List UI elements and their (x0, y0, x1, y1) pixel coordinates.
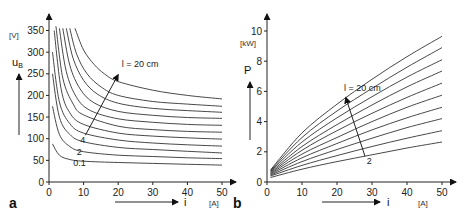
chart-a-curves (53, 26, 223, 165)
chart-a-y-label: uB (12, 56, 23, 69)
chart-b-panel-label: b (233, 195, 242, 211)
figure: 050100150200250300350 01020304050 [V] uB… (0, 0, 468, 217)
chart-a-annotation-0-1: 0.1 (73, 158, 86, 168)
chart-b-curves (271, 36, 443, 177)
y-tick-label: 100 (27, 133, 44, 144)
chart-a-x-label: i (184, 196, 186, 208)
chart-b-annotation-2: 2 (367, 156, 372, 166)
y-tick-label: 4 (256, 116, 262, 127)
chart-b-y-label: P (244, 64, 251, 76)
chart-a-x-unit: [A] (209, 199, 219, 208)
chart-b-annotation-20cm: l = 20 cm (344, 83, 381, 93)
chart-a-y-ticks: 050100150200250300350 (27, 25, 49, 188)
chart-a-annotation-20cm: l = 20 cm (122, 59, 159, 69)
series-curve (54, 31, 222, 140)
chart-a-y-unit: [V] (9, 31, 19, 40)
x-tick-label: 10 (78, 187, 90, 198)
chart-a-annotation-4: 4 (80, 135, 85, 145)
y-tick-label: 300 (27, 47, 44, 58)
chart-b-x-label: i (387, 196, 389, 208)
series-curve (271, 131, 443, 176)
chart-b-y-unit: [kW] (240, 39, 256, 48)
x-tick-label: 0 (264, 187, 270, 198)
x-tick-label: 10 (296, 187, 308, 198)
x-tick-label: 20 (331, 187, 343, 198)
y-tick-label: 6 (256, 86, 262, 97)
chart-a-panel-label: a (9, 195, 17, 211)
y-tick-label: 350 (27, 25, 44, 36)
series-curve (271, 36, 443, 170)
x-tick-label: 30 (147, 187, 159, 198)
chart-a: 050100150200250300350 01020304050 [V] uB… (9, 14, 236, 211)
y-tick-label: 200 (27, 90, 44, 101)
y-tick-label: 0 (256, 177, 262, 188)
y-tick-label: 250 (27, 68, 44, 79)
y-tick-label: 10 (251, 26, 263, 37)
chart-b: 0246810 01020304050 [kW] P b i [A] l = 2… (233, 14, 456, 211)
x-tick-label: 50 (216, 187, 228, 198)
series-curve (56, 26, 222, 132)
y-tick-label: 8 (256, 56, 262, 67)
chart-b-y-ticks: 0246810 (251, 26, 267, 188)
x-tick-label: 40 (401, 187, 413, 198)
x-tick-label: 50 (436, 187, 448, 198)
series-curve (271, 95, 443, 174)
x-tick-label: 0 (46, 187, 52, 198)
y-tick-label: 2 (256, 146, 262, 157)
y-tick-label: 150 (27, 112, 44, 123)
x-tick-label: 30 (366, 187, 378, 198)
chart-a-annotation-2: 2 (77, 147, 82, 157)
chart-a-x-ticks: 01020304050 (46, 182, 228, 198)
x-tick-label: 20 (113, 187, 125, 198)
chart-b-x-ticks: 01020304050 (264, 182, 448, 198)
series-curve (271, 48, 443, 171)
y-tick-label: 0 (38, 177, 44, 188)
y-tick-label: 50 (33, 155, 45, 166)
chart-b-x-unit: [A] (418, 199, 428, 208)
chart-a-length-arrow-icon (85, 75, 118, 136)
